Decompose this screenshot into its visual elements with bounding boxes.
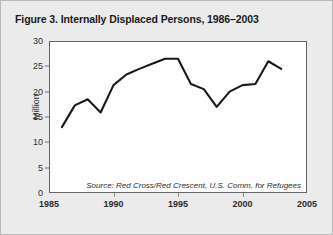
x-tick-mark bbox=[243, 193, 244, 197]
x-tick-label: 2000 bbox=[232, 199, 252, 209]
y-tick-label: 0 bbox=[38, 188, 49, 198]
figure-container: Figure 3. Internally Displaced Persons, … bbox=[0, 0, 333, 235]
x-tick-label: 1985 bbox=[39, 199, 59, 209]
source-note: Source: Red Cross/Red Crescent, U.S. Com… bbox=[86, 181, 301, 190]
x-tick-mark bbox=[178, 193, 179, 197]
data-line-svg bbox=[49, 41, 307, 193]
plot-area: Million 051015202530 1985199019952000200… bbox=[49, 41, 307, 193]
x-tick-mark bbox=[114, 193, 115, 197]
figure-title: Figure 3. Internally Displaced Persons, … bbox=[15, 13, 259, 25]
x-tick-label: 1995 bbox=[168, 199, 188, 209]
series-line-idp bbox=[62, 59, 281, 127]
y-tick-label: 30 bbox=[33, 36, 49, 46]
x-tick-label: 1990 bbox=[103, 199, 123, 209]
x-tick-label: 2005 bbox=[297, 199, 317, 209]
